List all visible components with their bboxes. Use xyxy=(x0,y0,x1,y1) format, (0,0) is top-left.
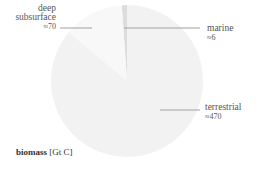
label-text: terrestrial xyxy=(205,103,241,112)
title-unit: [Gt C] xyxy=(47,147,73,157)
label-deep-subsurface: deep subsurface ≈70 xyxy=(10,4,56,31)
title-bold: biomass xyxy=(16,147,47,157)
label-value: ≈70 xyxy=(10,22,56,31)
label-value: ≈6 xyxy=(207,33,233,42)
label-text: subsurface xyxy=(10,13,56,22)
label-terrestrial: terrestrial ≈470 xyxy=(205,103,241,121)
label-value: ≈470 xyxy=(205,112,241,121)
chart-title: biomass [Gt C] xyxy=(16,147,73,157)
label-text: marine xyxy=(207,24,233,33)
label-marine: marine ≈6 xyxy=(207,24,233,42)
